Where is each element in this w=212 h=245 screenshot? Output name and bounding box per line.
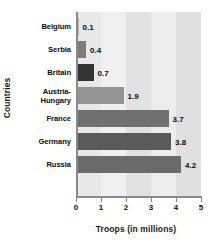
category-label-line: Hungary (14, 96, 71, 105)
x-axis-tick-label: 5 (191, 203, 211, 212)
y-axis-title-text: Countries (2, 78, 12, 119)
bar[interactable] (76, 156, 181, 173)
category-label-line: Germany (14, 137, 71, 146)
category-label-line: Russia (14, 160, 71, 169)
bar-row[interactable]: 1.9 (76, 87, 201, 104)
category-label: Russia (14, 160, 71, 169)
bar[interactable] (76, 64, 94, 81)
bar-value-label: 0.7 (98, 68, 109, 77)
bar-row[interactable]: 4.2 (76, 156, 201, 173)
x-axis-tick (176, 197, 177, 202)
bar-chart: Countries BelgiumSerbiaBritainAustria-Hu… (0, 0, 212, 245)
x-axis-tick (76, 197, 77, 202)
bar-value-label: 3.7 (173, 114, 184, 123)
bar-value-label: 3.8 (175, 137, 186, 146)
bar-value-label: 0.4 (90, 45, 101, 54)
category-label-line: Belgium (14, 22, 71, 31)
y-axis-title: Countries (0, 0, 14, 196)
bar-value-label: 1.9 (128, 91, 139, 100)
bar[interactable] (76, 110, 169, 127)
x-axis-tick-label: 0 (66, 203, 86, 212)
category-label-line: France (14, 114, 71, 123)
bar-row[interactable]: 3.8 (76, 133, 201, 150)
category-label: Austria-Hungary (14, 87, 71, 105)
category-label: France (14, 114, 71, 123)
category-label: Belgium (14, 22, 71, 31)
bar-row[interactable]: 0.4 (76, 41, 201, 58)
bar[interactable] (76, 41, 86, 58)
x-axis-tick-label: 4 (166, 203, 186, 212)
category-label-line: Austria- (14, 87, 71, 96)
x-axis-tick (201, 197, 202, 202)
bar-value-label: 0.1 (83, 22, 94, 31)
x-axis-tick (126, 197, 127, 202)
category-label-line: Serbia (14, 45, 71, 54)
category-axis-labels: BelgiumSerbiaBritainAustria-HungaryFranc… (14, 12, 74, 196)
bar-row[interactable]: 3.7 (76, 110, 201, 127)
x-axis-tick-label: 3 (141, 203, 161, 212)
x-axis-tick (101, 197, 102, 202)
bar-value-label: 4.2 (185, 160, 196, 169)
x-axis-line (76, 196, 202, 198)
category-label: Britain (14, 68, 71, 77)
x-axis-title: Troops (in millions) (60, 224, 212, 234)
bar[interactable] (76, 87, 124, 104)
bar-row[interactable]: 0.7 (76, 64, 201, 81)
category-label: Serbia (14, 45, 71, 54)
x-axis-tick-label: 1 (91, 203, 111, 212)
x-axis-tick-label: 2 (116, 203, 136, 212)
x-axis-tick (151, 197, 152, 202)
plot-area: 0.10.40.71.93.73.84.2 (76, 12, 201, 196)
category-label-line: Britain (14, 68, 71, 77)
y-axis-line (76, 12, 78, 197)
bar[interactable] (76, 133, 171, 150)
bar-row[interactable]: 0.1 (76, 18, 201, 35)
category-label: Germany (14, 137, 71, 146)
